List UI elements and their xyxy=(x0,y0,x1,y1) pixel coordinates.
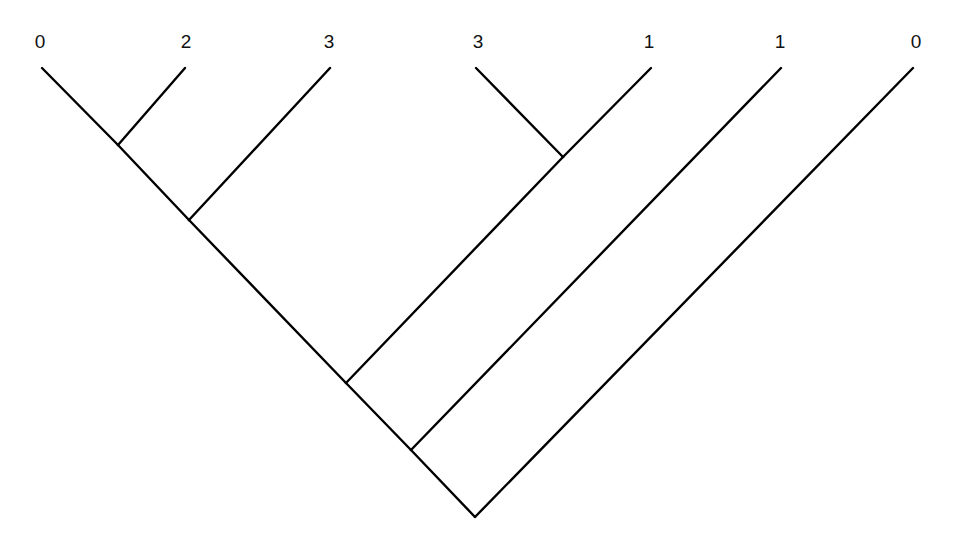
edge-B xyxy=(189,220,346,383)
edge-D xyxy=(346,383,411,450)
edge-leaf4 xyxy=(563,68,651,157)
leaf-label-1: 0 xyxy=(35,31,46,52)
edge-leaf3 xyxy=(476,68,563,157)
edge-leaf1 xyxy=(118,68,185,145)
leaf-labels: 0 2 3 3 1 1 0 xyxy=(35,31,922,52)
edge-E xyxy=(411,450,475,517)
leaf-label-6: 1 xyxy=(775,31,786,52)
leaf-label-5: 1 xyxy=(644,31,655,52)
edge-leaf2 xyxy=(189,68,330,220)
tree-edges xyxy=(42,68,913,517)
leaf-label-2: 2 xyxy=(181,31,192,52)
edge-leaf0 xyxy=(42,68,118,145)
cladogram: 0 2 3 3 1 1 0 xyxy=(0,0,962,543)
edge-A xyxy=(118,145,189,220)
leaf-label-3: 3 xyxy=(324,31,335,52)
leaf-label-4: 3 xyxy=(473,31,484,52)
edge-C xyxy=(346,157,563,383)
leaf-label-7: 0 xyxy=(911,31,922,52)
